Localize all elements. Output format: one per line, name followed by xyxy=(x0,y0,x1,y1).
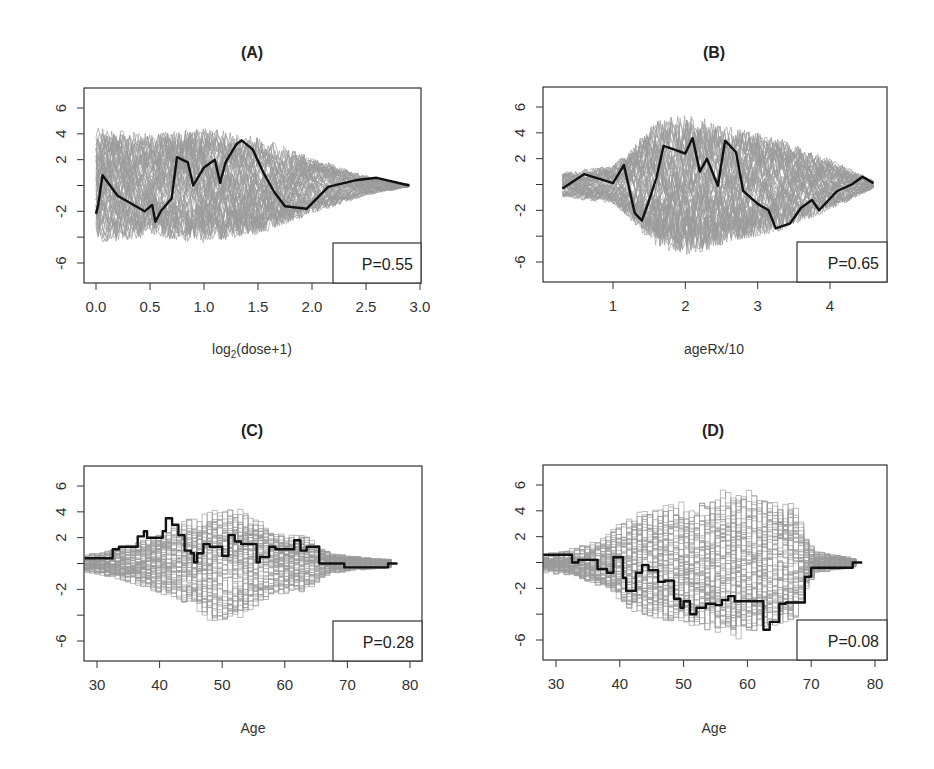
svg-text:30: 30 xyxy=(89,676,106,693)
legend-box: P=0.28 xyxy=(333,621,422,661)
p-value: P=0.28 xyxy=(363,634,414,651)
legend-box: P=0.08 xyxy=(797,620,887,660)
svg-text:-6: -6 xyxy=(511,255,528,268)
svg-text:3.0: 3.0 xyxy=(410,298,431,315)
x-axis-label: ageRx/10 xyxy=(684,341,744,357)
svg-text:80: 80 xyxy=(402,676,419,693)
svg-text:6: 6 xyxy=(52,104,69,112)
x-axis-label: Age xyxy=(241,720,266,736)
svg-text:1.0: 1.0 xyxy=(194,298,215,315)
svg-text:-2: -2 xyxy=(511,204,528,217)
panel-title: (B) xyxy=(703,44,725,61)
panel-title: (A) xyxy=(241,44,263,61)
svg-text:6: 6 xyxy=(511,481,528,489)
svg-text:-2: -2 xyxy=(52,205,69,218)
svg-text:0.5: 0.5 xyxy=(140,298,161,315)
panel-title: (D) xyxy=(702,422,724,439)
svg-text:-6: -6 xyxy=(52,256,69,269)
permutation-lines xyxy=(96,128,409,242)
svg-text:-6: -6 xyxy=(511,633,528,646)
svg-text:80: 80 xyxy=(867,675,884,692)
legend-box: P=0.55 xyxy=(333,243,421,283)
svg-text:50: 50 xyxy=(675,675,692,692)
svg-text:2.0: 2.0 xyxy=(302,298,323,315)
svg-text:4: 4 xyxy=(52,508,69,516)
svg-text:3: 3 xyxy=(753,297,761,314)
svg-text:2: 2 xyxy=(52,155,69,163)
x-axis-label: log2(dose+1) xyxy=(212,341,292,360)
permutation-lines xyxy=(543,490,856,639)
figure-canvas: (A) 0.00.51.01.52.02.53.0642-2-6 P=0.55 … xyxy=(0,0,934,769)
svg-text:30: 30 xyxy=(548,675,565,692)
svg-text:2.5: 2.5 xyxy=(356,298,377,315)
svg-text:2: 2 xyxy=(52,533,69,541)
legend-box: P=0.65 xyxy=(797,242,887,282)
panel-a: (A) 0.00.51.01.52.02.53.0642-2-6 P=0.55 … xyxy=(52,44,430,360)
svg-text:50: 50 xyxy=(214,676,231,693)
svg-text:70: 70 xyxy=(339,676,356,693)
svg-text:-2: -2 xyxy=(52,583,69,596)
svg-text:2: 2 xyxy=(511,154,528,162)
svg-text:40: 40 xyxy=(151,676,168,693)
panel-c: (C) 304050607080642-2-6 P=0.28 Age xyxy=(52,422,422,736)
svg-text:1: 1 xyxy=(609,297,617,314)
p-value: P=0.65 xyxy=(828,255,879,272)
svg-text:60: 60 xyxy=(276,676,293,693)
p-value: P=0.55 xyxy=(362,256,413,273)
panel-d: (D) 304050607080642-2-6 P=0.08 Age xyxy=(511,422,887,736)
svg-text:6: 6 xyxy=(52,482,69,490)
svg-text:4: 4 xyxy=(511,129,528,137)
x-axis-label: Age xyxy=(702,720,727,736)
svg-text:60: 60 xyxy=(739,675,756,692)
svg-text:0.0: 0.0 xyxy=(86,298,107,315)
svg-text:-2: -2 xyxy=(511,582,528,595)
svg-text:4: 4 xyxy=(511,507,528,515)
svg-text:1.5: 1.5 xyxy=(248,298,269,315)
svg-text:4: 4 xyxy=(826,297,834,314)
panel-title: (C) xyxy=(241,422,263,439)
svg-text:2: 2 xyxy=(511,532,528,540)
svg-text:6: 6 xyxy=(511,103,528,111)
svg-text:40: 40 xyxy=(611,675,628,692)
svg-text:4: 4 xyxy=(52,130,69,138)
svg-text:70: 70 xyxy=(803,675,820,692)
panel-b: (B) 1234642-2-6 P=0.65 ageRx/10 xyxy=(511,44,887,357)
svg-text:-6: -6 xyxy=(52,634,69,647)
svg-text:2: 2 xyxy=(681,297,689,314)
p-value: P=0.08 xyxy=(828,633,879,650)
